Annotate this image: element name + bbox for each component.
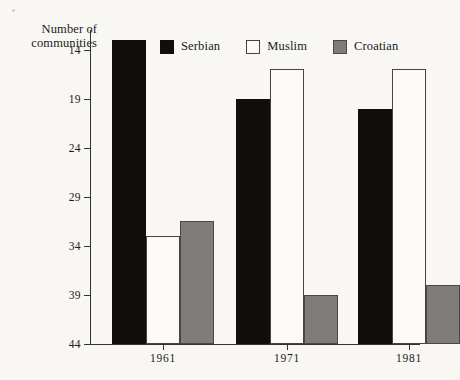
y-axis-line — [90, 30, 91, 345]
y-axis-tick — [84, 197, 90, 198]
y-axis-tick — [84, 50, 90, 51]
bar-serbian-1961 — [112, 40, 146, 344]
bar-muslim-1971 — [270, 69, 304, 344]
y-axis-tick — [84, 344, 90, 345]
bar-muslim-1981 — [392, 69, 426, 344]
bar-croatian-1961 — [180, 221, 214, 344]
y-axis-tick-label: 34 — [69, 240, 81, 252]
y-axis-tick-label: 24 — [69, 142, 81, 154]
y-axis-tick-label: 39 — [69, 289, 81, 301]
bar-croatian-1971 — [304, 295, 338, 344]
bar-muslim-1961 — [146, 236, 180, 344]
y-axis-title-line2: communities — [8, 37, 97, 51]
y-axis-tick-label: 44 — [69, 338, 81, 350]
y-axis-title: Number of communities — [8, 23, 97, 50]
y-axis-title-line1: Number of — [8, 23, 97, 37]
x-axis-tick-label: 1971 — [274, 352, 300, 364]
y-axis-tick-label: 19 — [69, 93, 81, 105]
bar-serbian-1981 — [358, 109, 392, 345]
bar-serbian-1971 — [236, 99, 270, 344]
y-axis-tick — [84, 246, 90, 247]
x-axis-tick-label: 1981 — [396, 352, 422, 364]
plot-area: 44393429241914 196119711981 — [90, 30, 420, 345]
y-axis-tick — [84, 99, 90, 100]
y-axis-tick-label: 14 — [69, 44, 81, 56]
y-axis-tick-label: 29 — [69, 191, 81, 203]
x-axis-tick — [287, 345, 288, 350]
y-axis-tick — [84, 148, 90, 149]
x-axis-tick — [409, 345, 410, 350]
x-axis-line — [90, 344, 420, 345]
x-axis-tick — [163, 345, 164, 350]
bar-croatian-1981 — [426, 285, 460, 344]
x-axis-tick-label: 1961 — [150, 352, 176, 364]
y-axis-tick — [84, 295, 90, 296]
